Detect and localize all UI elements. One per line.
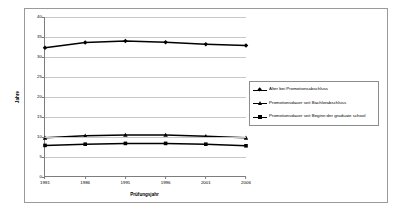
y-axis-tick — [42, 157, 45, 158]
y-axis-tick — [42, 97, 45, 98]
x-axis-tick-label: 1991 — [121, 181, 131, 185]
legend-item-label: Alter bei Promotionsabschluss — [269, 86, 328, 92]
x-axis-tick-mark — [85, 176, 86, 179]
data-point-marker — [204, 42, 209, 47]
y-axis-tick-label: 15 — [37, 115, 42, 119]
data-point-marker — [43, 144, 47, 148]
y-axis-tick — [42, 17, 45, 18]
x-axis-tick: 1996 — [161, 176, 171, 185]
legend-item: Promotionsdauer seit Beginn der graduate… — [253, 113, 375, 121]
y-axis-tick-label: 40 — [37, 15, 42, 19]
legend-item-label: Promotionsdauer seit Bachlorabschluss — [269, 100, 346, 106]
chart-figure: 0510152025303540198119861991199620012006… — [0, 0, 410, 217]
x-axis-tick: 1991 — [121, 176, 131, 185]
x-axis-tick-label: 1981 — [40, 181, 50, 185]
x-axis-tick: 2006 — [241, 176, 251, 185]
data-point-marker — [83, 40, 88, 45]
data-point-marker — [164, 142, 168, 146]
x-axis-tick: 2001 — [201, 176, 211, 185]
x-axis-tick-label: 2006 — [241, 181, 251, 185]
data-point-marker — [43, 46, 48, 51]
gridline — [45, 17, 246, 18]
legend-item-label: Promotionsdauer seit Beginn der graduate… — [269, 113, 365, 119]
y-axis-tick-label: 5 — [40, 155, 42, 159]
data-point-marker — [244, 144, 248, 148]
plot-area: 0510152025303540198119861991199620012006 — [44, 17, 245, 177]
gridline — [45, 37, 246, 38]
data-point-marker — [163, 40, 168, 45]
legend-marker-triangle-icon — [253, 100, 267, 107]
x-axis-tick-mark — [165, 176, 166, 179]
y-axis-tick-label: 30 — [37, 55, 42, 59]
series-line — [45, 143, 246, 145]
data-point-marker — [83, 142, 87, 146]
y-axis-tick-label: 35 — [37, 35, 42, 39]
y-axis-tick — [42, 137, 45, 138]
legend-marker-square-icon — [253, 114, 267, 121]
y-axis-tick — [42, 37, 45, 38]
data-point-marker — [123, 39, 128, 44]
data-point-marker — [124, 142, 128, 146]
series-line — [45, 41, 246, 48]
x-axis-tick-label: 1996 — [161, 181, 171, 185]
y-axis-title: Jahre — [15, 91, 20, 103]
gridline — [45, 77, 246, 78]
gridline — [45, 97, 246, 98]
x-axis-tick-mark — [45, 176, 46, 179]
y-axis-tick-label: 25 — [37, 75, 42, 79]
x-axis-tick: 1981 — [40, 176, 50, 185]
x-axis-tick-label: 2001 — [201, 181, 211, 185]
gridline — [45, 117, 246, 118]
x-axis-tick-label: 1986 — [80, 181, 90, 185]
data-point-marker — [204, 142, 208, 146]
legend-marker-diamond-icon — [253, 87, 267, 94]
x-axis-tick-mark — [125, 176, 126, 179]
gridline — [45, 137, 246, 138]
gridline — [45, 157, 246, 158]
y-axis-tick — [42, 57, 45, 58]
y-axis-tick — [42, 77, 45, 78]
legend-item: Promotionsdauer seit Bachlorabschluss — [253, 100, 375, 108]
y-axis-tick — [42, 117, 45, 118]
gridline — [45, 57, 246, 58]
y-axis-tick-label: 10 — [37, 135, 42, 139]
legend-item: Alter bei Promotionsabschluss — [253, 86, 375, 94]
x-axis-tick-mark — [205, 176, 206, 179]
y-axis-tick-label: 20 — [37, 95, 42, 99]
chart-legend: Alter bei Promotionsabschluss Promotions… — [249, 81, 379, 126]
x-axis-tick: 1986 — [80, 176, 90, 185]
x-axis-tick-mark — [246, 176, 247, 179]
x-axis-title: Prüfungsjahr — [44, 192, 245, 197]
